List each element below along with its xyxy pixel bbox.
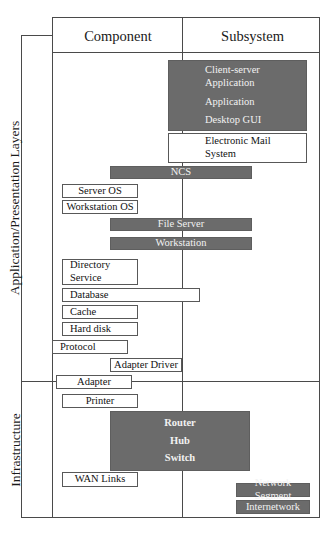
section-label-infrastructure: Infrastructure	[0, 382, 31, 518]
node-printer-label: Printer	[86, 395, 115, 408]
node-application: Application	[205, 96, 306, 109]
node-adapter-label: Adapter	[77, 376, 111, 389]
column-header-row: Component Subsystem	[52, 17, 320, 53]
node-internetwork[interactable]: Internetwork	[236, 500, 310, 514]
node-workstation-os-label: Workstation OS	[66, 201, 133, 214]
section-label-application-presentation-layers: Application/Presentation Layers	[0, 35, 31, 381]
node-printer[interactable]: Printer	[62, 394, 138, 408]
node-ncs[interactable]: NCS	[110, 166, 252, 179]
column-header-divider	[182, 17, 183, 53]
node-network-segment-label: Network Segment	[237, 477, 309, 503]
node-adapter-driver[interactable]: Adapter Driver	[110, 358, 182, 372]
node-electronic-mail-system-line2: System	[205, 148, 306, 161]
node-wan-links-label: WAN Links	[75, 473, 125, 486]
node-router: Router	[111, 417, 249, 430]
node-protocol-label: Protocol	[60, 341, 96, 354]
node-directory-service[interactable]: Directory Service	[62, 259, 138, 285]
node-hard-disk[interactable]: Hard disk	[62, 322, 138, 336]
node-client-server-application-line2: Application	[205, 77, 306, 90]
node-adapter[interactable]: Adapter	[56, 375, 132, 389]
node-workstation-label: Workstation	[155, 237, 206, 250]
node-database-label: Database	[70, 289, 108, 302]
node-wan-links[interactable]: WAN Links	[62, 472, 138, 487]
column-header-subsystem: Subsystem	[184, 18, 321, 54]
node-ncs-label: NCS	[171, 166, 191, 179]
node-electronic-mail-system[interactable]: Electronic Mail System	[168, 133, 307, 163]
node-hub: Hub	[111, 435, 249, 448]
node-hard-disk-label: Hard disk	[70, 323, 111, 336]
node-client-server-application-line1: Client-server	[205, 64, 306, 77]
node-protocol[interactable]: Protocol	[52, 340, 128, 354]
node-database[interactable]: Database	[62, 288, 200, 302]
node-server-os-label: Server OS	[78, 185, 121, 198]
node-cache-label: Cache	[70, 306, 96, 319]
node-cache[interactable]: Cache	[62, 305, 138, 319]
column-header-component: Component	[53, 18, 183, 54]
node-internetwork-label: Internetwork	[246, 501, 300, 514]
node-directory-service-line2: Service	[70, 272, 137, 285]
node-directory-service-line1: Directory	[70, 259, 137, 272]
node-router-hub-switch-group[interactable]: Router Hub Switch	[110, 411, 250, 471]
node-client-server-group[interactable]: Client-server Application Application De…	[168, 60, 307, 131]
section-label-text: Infrastructure	[8, 413, 24, 486]
node-file-server[interactable]: File Server	[110, 218, 252, 231]
node-desktop-gui: Desktop GUI	[205, 114, 306, 127]
node-adapter-driver-label: Adapter Driver	[114, 359, 178, 372]
node-server-os[interactable]: Server OS	[62, 184, 138, 198]
node-workstation-os[interactable]: Workstation OS	[62, 200, 138, 214]
node-workstation[interactable]: Workstation	[110, 237, 252, 250]
node-network-segment[interactable]: Network Segment	[236, 483, 310, 497]
layer-label-column-divider	[52, 35, 53, 518]
section-label-text: Application/Presentation Layers	[8, 121, 24, 295]
node-switch: Switch	[111, 452, 249, 465]
node-file-server-label: File Server	[158, 218, 204, 231]
node-electronic-mail-system-line1: Electronic Mail	[205, 135, 306, 148]
